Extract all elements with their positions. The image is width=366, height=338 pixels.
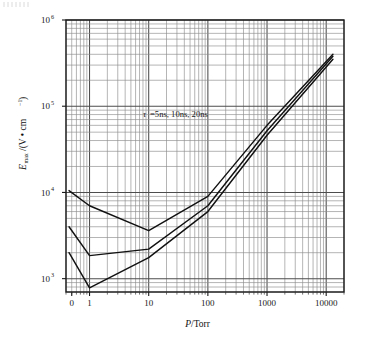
x-axis-title-unit: /Torr — [191, 319, 211, 329]
x-tick-label: 1 — [87, 298, 92, 308]
x-tick-label: 10000 — [315, 298, 338, 308]
y-tick-label-exponent: 3 — [51, 271, 54, 278]
x-tick-label: 1000 — [258, 298, 277, 308]
y-axis-title-unit: /(V • cm — [18, 118, 29, 151]
log-log-plot: 0110100100010000 103104105106 τ =5ns, 10… — [0, 0, 366, 338]
y-tick-label-base: 10 — [41, 274, 51, 284]
tau-annotation: τ =5ns, 10ns, 20ns — [143, 109, 209, 119]
x-axis-title: P /Torr — [184, 319, 211, 329]
y-tick-label-exponent: 4 — [51, 185, 54, 192]
y-axis-title-close: ) — [18, 97, 29, 100]
x-tick-label: 0 — [69, 298, 74, 308]
x-tick-label: 100 — [201, 298, 215, 308]
x-tick-marks — [66, 292, 344, 296]
scan-artifact — [3, 2, 29, 7]
y-axis-title-subscript: max — [23, 153, 29, 163]
y-axis-title-symbol: E — [18, 164, 28, 171]
x-tick-label: 10 — [144, 298, 154, 308]
figure-container: 0110100100010000 103104105106 τ =5ns, 10… — [0, 0, 366, 338]
x-tick-labels: 0110100100010000 — [69, 298, 337, 308]
y-tick-label-exponent: 6 — [51, 13, 54, 20]
y-tick-label-exponent: 5 — [51, 99, 54, 106]
y-tick-label-base: 10 — [41, 15, 51, 25]
tau-values: =5ns, 10ns, 20ns — [150, 109, 209, 119]
y-axis-title: E max /(V • cm −1 ) — [17, 97, 29, 171]
y-tick-label-base: 10 — [41, 188, 51, 198]
y-tick-label-base: 10 — [41, 101, 51, 111]
y-tick-labels: 103104105106 — [41, 13, 54, 284]
